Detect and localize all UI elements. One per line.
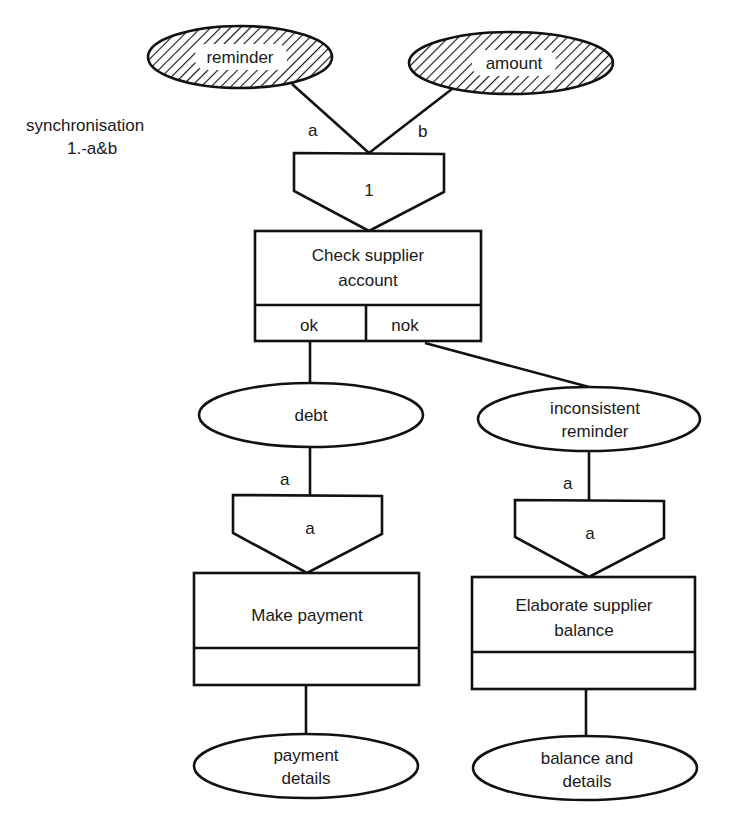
event-balance-line2: details: [562, 772, 611, 791]
process-make-payment-label: Make payment: [251, 606, 363, 625]
process-check-line1: Check supplier: [312, 246, 425, 265]
process-elaborate-supplier-balance[interactable]: Elaborate supplier balance: [472, 577, 695, 689]
event-inconsistent-reminder[interactable]: inconsistent reminder: [478, 387, 700, 451]
left-edge-label: a: [280, 470, 290, 489]
process-elaborate-line1: Elaborate supplier: [515, 596, 652, 615]
event-amount-label: amount: [486, 54, 543, 73]
event-amount[interactable]: amount: [409, 32, 613, 94]
event-reminder[interactable]: reminder: [148, 26, 332, 88]
process-check-line2: account: [338, 271, 398, 290]
edge-reminder-to-sync: [292, 84, 369, 153]
sync-node-left[interactable]: a: [233, 495, 382, 573]
synchronisation-annotation: synchronisation 1.-a&b: [26, 116, 144, 158]
edge-label-a: a: [308, 121, 318, 140]
process-elaborate-line2: balance: [554, 621, 614, 640]
edge-amount-to-sync: [369, 89, 452, 153]
event-balance-and-details[interactable]: balance and details: [473, 736, 697, 800]
right-edge-label: a: [563, 474, 573, 493]
outcome-nok: nok: [391, 316, 419, 335]
event-inconsistent-line1: inconsistent: [550, 399, 640, 418]
event-debt[interactable]: debt: [199, 383, 423, 447]
sync-node-1-label: 1: [364, 181, 373, 200]
process-diagram: synchronisation 1.-a&b a b reminder amou…: [0, 0, 729, 824]
process-check-supplier-account[interactable]: Check supplier account ok nok: [255, 231, 481, 341]
event-reminder-label: reminder: [206, 48, 273, 67]
annotation-line1: synchronisation: [26, 116, 144, 135]
sync-node-right[interactable]: a: [515, 500, 664, 577]
sync-node-right-label: a: [585, 524, 595, 543]
event-debt-label: debt: [294, 406, 327, 425]
sync-node-1[interactable]: 1: [294, 153, 444, 231]
event-inconsistent-line2: reminder: [561, 422, 628, 441]
event-payment-details-line1: payment: [273, 746, 338, 765]
process-make-payment[interactable]: Make payment: [194, 573, 419, 685]
edge-nok-to-inconsistent: [425, 343, 589, 387]
event-payment-details-line2: details: [281, 769, 330, 788]
edge-label-b: b: [418, 122, 427, 141]
event-payment-details[interactable]: payment details: [194, 734, 418, 798]
sync-node-left-label: a: [305, 519, 315, 538]
outcome-ok: ok: [300, 316, 318, 335]
annotation-line2: 1.-a&b: [67, 139, 117, 158]
event-balance-line1: balance and: [541, 749, 634, 768]
